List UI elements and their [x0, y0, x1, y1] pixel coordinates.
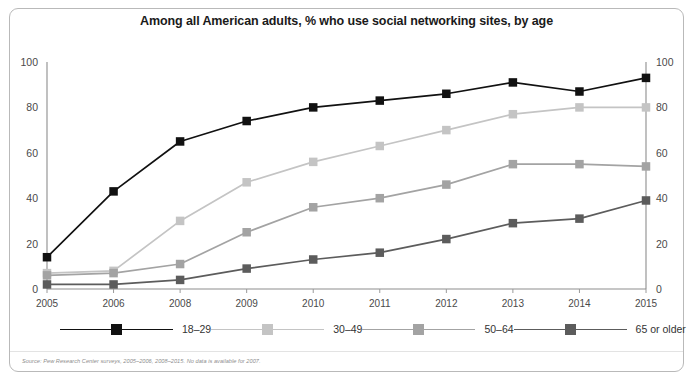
data-point — [575, 103, 584, 112]
chart-page: Among all American adults, % who use soc… — [0, 0, 693, 381]
svg-text:2010: 2010 — [302, 298, 325, 309]
legend-line-30-49 — [211, 329, 263, 330]
svg-text:0: 0 — [656, 283, 662, 295]
legend-item-65-or-older[interactable]: 65 or older — [514, 323, 686, 335]
legend-item-30-49[interactable]: 30–49 — [211, 323, 362, 335]
data-point — [176, 260, 185, 269]
data-point — [43, 280, 52, 289]
data-point — [309, 103, 318, 112]
chart-legend: 18–29 30–49 50–64 65 or older — [60, 318, 660, 340]
data-point — [376, 142, 385, 151]
data-point — [509, 110, 518, 119]
data-point — [376, 96, 385, 105]
data-point — [176, 276, 185, 285]
legend-line2-18-29 — [121, 329, 173, 330]
svg-text:20: 20 — [656, 238, 668, 250]
series-18-29 — [43, 74, 651, 262]
legend-line2-50-64 — [423, 329, 475, 330]
data-point — [442, 126, 451, 135]
svg-text:80: 80 — [656, 101, 668, 113]
svg-text:2006: 2006 — [102, 298, 125, 309]
legend-label-65-or-older: 65 or older — [636, 323, 686, 335]
svg-text:2012: 2012 — [435, 298, 458, 309]
svg-text:40: 40 — [26, 192, 38, 204]
data-point — [109, 269, 118, 278]
svg-text:60: 60 — [26, 147, 38, 159]
data-point — [442, 235, 451, 244]
legend-item-18-29[interactable]: 18–29 — [60, 323, 211, 335]
legend-line-50-64 — [362, 329, 414, 330]
data-point — [309, 255, 318, 263]
legend-line2-65-or-older — [575, 329, 627, 330]
svg-text:80: 80 — [26, 101, 38, 113]
svg-text:40: 40 — [656, 192, 668, 204]
data-point — [509, 219, 518, 228]
svg-text:20: 20 — [26, 238, 38, 250]
series-65-or-older — [43, 196, 651, 288]
data-point — [376, 248, 385, 257]
data-point — [176, 137, 185, 146]
legend-label-50-64: 50–64 — [484, 323, 513, 335]
legend-line-65-or-older — [514, 329, 566, 330]
source-divider — [10, 351, 683, 352]
legend-item-50-64[interactable]: 50–64 — [362, 323, 513, 335]
svg-text:2008: 2008 — [169, 298, 192, 309]
svg-text:2014: 2014 — [568, 298, 591, 309]
data-point — [309, 158, 318, 167]
data-point — [43, 271, 52, 280]
data-point — [442, 180, 451, 189]
data-point — [575, 87, 584, 96]
data-point — [109, 187, 118, 196]
svg-text:100: 100 — [656, 56, 674, 68]
legend-label-18-29: 18–29 — [182, 323, 211, 335]
legend-line2-30-49 — [272, 329, 324, 330]
data-point — [309, 203, 318, 212]
data-point — [442, 90, 451, 99]
data-point — [242, 178, 251, 187]
data-point — [575, 214, 584, 223]
data-point — [575, 160, 584, 169]
svg-text:2015: 2015 — [635, 298, 658, 309]
data-point — [376, 194, 385, 203]
svg-text:0: 0 — [32, 283, 38, 295]
data-point — [642, 74, 651, 83]
data-point — [642, 162, 651, 171]
legend-label-30-49: 30–49 — [333, 323, 362, 335]
series-30-49 — [43, 103, 651, 277]
data-point — [642, 103, 651, 112]
svg-text:60: 60 — [656, 147, 668, 159]
source-note: Source: Pew Research Center surveys, 200… — [22, 358, 261, 364]
data-point — [176, 217, 185, 226]
svg-text:2013: 2013 — [502, 298, 525, 309]
legend-line-18-29 — [60, 329, 112, 330]
svg-text:100: 100 — [20, 56, 38, 68]
data-point — [109, 280, 118, 289]
data-point — [509, 160, 518, 169]
data-point — [242, 264, 251, 273]
svg-text:2011: 2011 — [369, 298, 391, 309]
svg-text:2009: 2009 — [236, 298, 259, 309]
data-point — [43, 253, 52, 262]
data-point — [509, 78, 518, 87]
data-point — [242, 117, 251, 126]
data-point — [642, 196, 651, 205]
data-point — [242, 228, 251, 237]
svg-text:2005: 2005 — [36, 298, 59, 309]
